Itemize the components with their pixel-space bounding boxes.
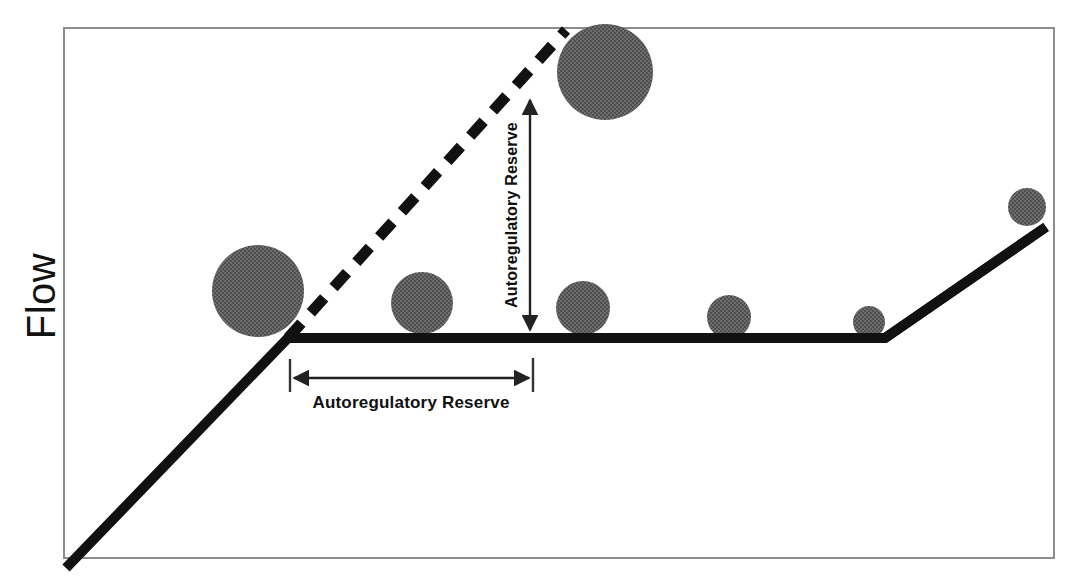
vessel-2-circle [391, 272, 453, 334]
vessel-7-circle [1008, 188, 1046, 226]
autoregulation-figure: Flow Autoregulatory Reserve Au [0, 0, 1077, 583]
vessel-1-circle [212, 245, 304, 337]
horizontal-reserve-label: Autoregulatory Reserve [312, 393, 509, 412]
vertical-reserve-label: Autoregulatory Reserve [503, 122, 520, 308]
vessel-5-circle [707, 295, 751, 339]
y-axis-label: Flow [19, 253, 63, 339]
horizontal-reserve-annotation: Autoregulatory Reserve [290, 358, 533, 412]
vessel-3-circle [557, 24, 653, 120]
vessel-markers [212, 24, 1046, 339]
figure-canvas: Flow Autoregulatory Reserve Au [0, 0, 1077, 583]
vessel-4-circle [556, 281, 610, 335]
y-axis-label-text: Flow [19, 253, 63, 339]
measured-flow-curve-solid [66, 227, 1046, 568]
vertical-reserve-annotation: Autoregulatory Reserve [503, 100, 530, 330]
